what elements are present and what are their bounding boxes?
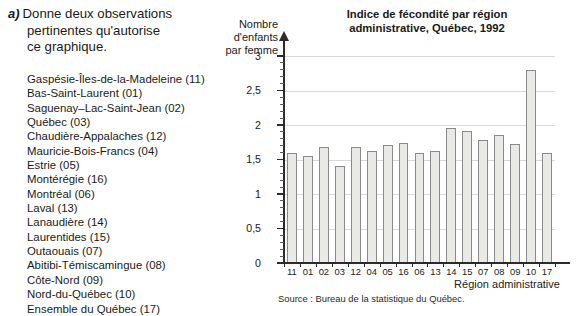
region-list-item: Chaudière-Appalaches (12): [27, 129, 232, 143]
y-axis-minor-tick: [280, 173, 284, 174]
bar: [383, 145, 393, 263]
region-list-item: Montérégie (16): [27, 172, 232, 186]
bar: [462, 131, 472, 263]
chart-container: Indice de fécondité par région administr…: [232, 0, 585, 316]
y-axis-minor-tick: [280, 200, 284, 201]
y-axis-minor-tick: [280, 97, 284, 98]
region-list-item: Abitibi-Témiscamingue (08): [27, 258, 232, 272]
y-axis-tick-label: 2: [221, 120, 261, 131]
region-list-item: Gaspésie-Îles-de-la-Madeleine (11): [27, 72, 232, 86]
region-list-item: Saguenay–Lac-Saint-Jean (02): [27, 101, 232, 115]
y-axis-tick: [277, 159, 284, 160]
y-axis-minor-tick: [280, 152, 284, 153]
question-line-2: pertinentes qu'autorise: [27, 23, 226, 40]
y-axis-minor-tick: [280, 131, 284, 132]
y-axis-minor-tick: [280, 145, 284, 146]
bar: [510, 144, 520, 263]
y-axis-minor-tick: [280, 104, 284, 105]
x-axis-tick-label: 17: [536, 267, 558, 277]
y-axis-minor-tick: [280, 249, 284, 250]
chart-source-note: Source : Bureau de la statistique du Qué…: [278, 293, 465, 304]
region-list-item: Laurentides (15): [27, 230, 232, 244]
y-axis-tick-label: 3: [221, 51, 261, 62]
bar: [335, 166, 345, 263]
region-list-item: Laval (13): [27, 201, 232, 215]
y-axis-minor-tick: [280, 235, 284, 236]
y-axis-tick: [277, 90, 284, 91]
bar: [351, 147, 361, 263]
y-axis-tick-label: 1: [221, 189, 261, 200]
question-line-1: Donne deux observations: [23, 6, 173, 21]
gridline: [284, 56, 555, 57]
region-list-item: Ensemble du Québec (17): [27, 302, 232, 316]
y-axis-minor-tick: [280, 214, 284, 215]
y-axis-minor-tick: [280, 118, 284, 119]
bar: [287, 153, 297, 263]
y-axis-minor-tick: [280, 111, 284, 112]
y-axis-label-line-2: d'enfants: [208, 31, 278, 44]
y-axis-minor-tick: [280, 221, 284, 222]
region-list-item: Côte-Nord (09): [27, 273, 232, 287]
y-axis-minor-tick: [280, 76, 284, 77]
plot-area: [284, 56, 555, 263]
chart-title-line-2: administrative, Québec, 1992: [277, 22, 577, 36]
bar: [303, 156, 313, 263]
y-axis-label-line-1: Nombre: [208, 18, 278, 31]
region-list-item: Estrie (05): [27, 158, 232, 172]
y-axis-tick: [277, 228, 284, 229]
bar: [415, 153, 425, 263]
y-axis-tick-label: 0: [221, 258, 261, 269]
region-list-item: Outaouais (07): [27, 244, 232, 258]
y-axis-minor-tick: [280, 138, 284, 139]
chart-title: Indice de fécondité par région administr…: [277, 8, 577, 35]
y-axis-minor-tick: [280, 207, 284, 208]
bar: [542, 153, 552, 263]
y-axis-minor-tick: [280, 256, 284, 257]
y-axis-minor-tick: [280, 242, 284, 243]
region-list-item: Mauricie-Bois-Francs (04): [27, 144, 232, 158]
question-line-3: ce graphique.: [27, 39, 226, 56]
question-marker: a): [8, 6, 20, 21]
bar: [430, 151, 440, 263]
y-axis-tick: [277, 262, 284, 263]
region-list-item: Nord-du-Québec (10): [27, 287, 232, 301]
region-legend-list: Gaspésie-Îles-de-la-Madeleine (11)Bas-Sa…: [27, 72, 232, 316]
chart-title-line-1: Indice de fécondité par région: [277, 8, 577, 22]
gridline: [284, 125, 555, 126]
y-axis-minor-tick: [280, 180, 284, 181]
y-axis-tick-label: 1,5: [221, 154, 261, 165]
worksheet-page: a)Donne deux observations pertinentes qu…: [0, 0, 585, 316]
y-axis-tick-label: 0,5: [221, 223, 261, 234]
bar: [494, 135, 504, 263]
y-axis-tick: [277, 124, 284, 125]
region-list-item: Bas-Saint-Laurent (01): [27, 86, 232, 100]
bar: [399, 143, 409, 263]
region-list-item: Montréal (06): [27, 187, 232, 201]
y-axis-minor-tick: [280, 187, 284, 188]
y-axis-tick-label: 2,5: [221, 85, 261, 96]
bar: [478, 140, 488, 263]
y-axis-tick: [277, 193, 284, 194]
x-axis-label: Région administrative: [432, 278, 582, 290]
y-axis-tick: [277, 55, 284, 56]
question-text: a)Donne deux observations pertinentes qu…: [8, 6, 226, 56]
bar: [367, 151, 377, 263]
y-axis-minor-tick: [280, 62, 284, 63]
y-axis-minor-tick: [280, 69, 284, 70]
bar: [319, 147, 329, 263]
question-panel: a)Donne deux observations pertinentes qu…: [0, 0, 232, 316]
region-list-item: Québec (03): [27, 115, 232, 129]
y-axis-minor-tick: [280, 83, 284, 84]
bar: [446, 128, 456, 263]
y-axis-minor-tick: [280, 166, 284, 167]
bar: [526, 70, 536, 263]
x-axis-line: [277, 262, 570, 264]
region-list-item: Lanaudière (14): [27, 215, 232, 229]
gridline: [284, 91, 555, 92]
